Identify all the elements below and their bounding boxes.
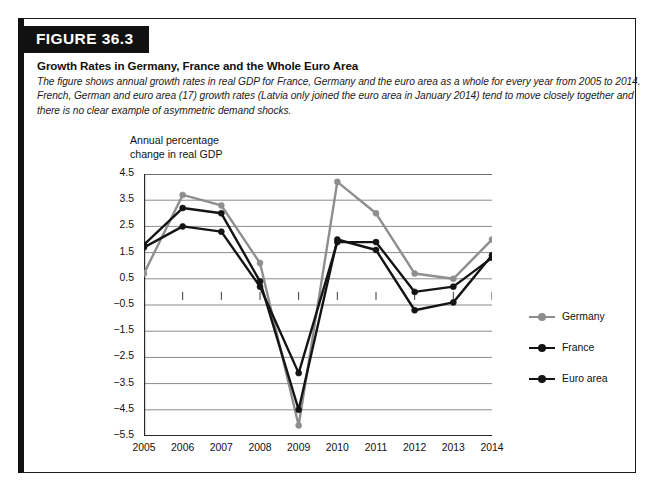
x-axis-tick-label: 2005 — [124, 442, 164, 453]
data-point-germany-2008 — [257, 260, 263, 266]
y-axis-tick-label: −1.5 — [100, 324, 134, 335]
legend-swatch-line-icon — [529, 374, 555, 384]
chart-legend: Germany France Euro area — [529, 301, 608, 394]
x-axis-tick-label: 2006 — [163, 442, 203, 453]
x-axis-tick-label: 2011 — [356, 442, 396, 453]
data-point-germany-2012 — [412, 271, 418, 277]
x-axis-tick-label: 2014 — [472, 442, 512, 453]
y-axis-tick-label: 0.5 — [100, 272, 134, 283]
data-point-germany-2007 — [218, 202, 224, 208]
x-axis-tick-label: 2013 — [433, 442, 473, 453]
data-point-germany-2006 — [180, 192, 186, 198]
data-point-euro-area-2010 — [334, 237, 340, 243]
data-point-france-2007 — [218, 229, 224, 235]
data-point-france-2013 — [450, 284, 456, 290]
x-axis-tick-label: 2008 — [240, 442, 280, 453]
data-point-euro-area-2009 — [296, 407, 302, 413]
y-axis-title-line: Annual percentage — [130, 133, 222, 147]
legend-swatch-line-icon — [529, 343, 555, 353]
data-point-germany-2013 — [450, 276, 456, 282]
y-axis-tick-label: 4.5 — [100, 167, 134, 178]
data-point-germany-2010 — [334, 179, 340, 185]
y-axis-title: Annual percentage change in real GDP — [130, 133, 222, 161]
legend-label: Euro area — [562, 373, 608, 384]
data-point-germany-2009 — [296, 423, 302, 429]
legend-swatch-line-icon — [529, 312, 555, 322]
x-axis-tick-label: 2009 — [279, 442, 319, 453]
legend-item-germany: Germany — [529, 301, 608, 332]
y-axis-tick-label: 3.5 — [100, 193, 134, 204]
legend-label: France — [562, 342, 594, 353]
figure-container: FIGURE 36.3 Growth Rates in Germany, Fra… — [18, 18, 636, 473]
x-axis-tick-label: 2012 — [395, 442, 435, 453]
x-axis-tick-label: 2007 — [201, 442, 241, 453]
data-point-france-2012 — [412, 289, 418, 295]
data-point-euro-area-2006 — [180, 205, 186, 211]
y-axis-tick-label: −5.5 — [100, 429, 134, 440]
line-chart-svg — [144, 174, 492, 436]
x-axis-tick-label: 2010 — [317, 442, 357, 453]
data-point-euro-area-2012 — [412, 307, 418, 313]
data-point-france-2009 — [296, 370, 302, 376]
data-point-germany-2011 — [373, 210, 379, 216]
y-axis-title-line: change in real GDP — [130, 147, 222, 161]
y-axis-tick-label: −2.5 — [100, 350, 134, 361]
data-point-france-2006 — [180, 223, 186, 229]
y-axis-tick-label: −4.5 — [100, 403, 134, 414]
data-point-euro-area-2013 — [450, 299, 456, 305]
y-axis-tick-label: −0.5 — [100, 298, 134, 309]
y-axis-tick-label: 2.5 — [100, 219, 134, 230]
data-point-germany-2005 — [144, 271, 147, 277]
data-point-euro-area-2007 — [218, 210, 224, 216]
plot-area — [144, 174, 492, 436]
data-point-euro-area-2011 — [373, 247, 379, 253]
legend-item-euro-area: Euro area — [529, 363, 608, 394]
legend-item-france: France — [529, 332, 608, 363]
y-axis-tick-label: −3.5 — [100, 377, 134, 388]
legend-label: Germany — [562, 311, 605, 322]
data-point-france-2011 — [373, 239, 379, 245]
data-point-euro-area-2008 — [257, 278, 263, 284]
chart: Annual percentage change in real GDP 4.5… — [24, 19, 636, 468]
y-axis-tick-label: 1.5 — [100, 246, 134, 257]
